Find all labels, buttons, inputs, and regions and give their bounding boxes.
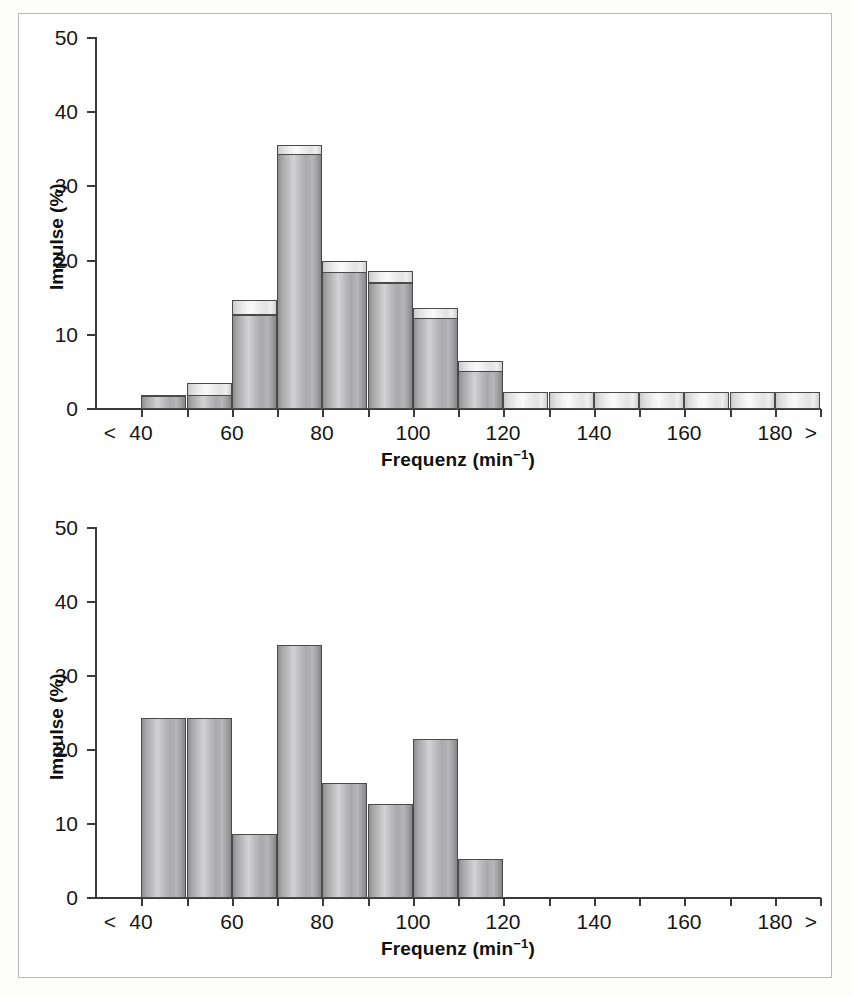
x-axis-tick-label: > [781,422,841,443]
histogram-bar [322,783,367,898]
x-axis-tick [413,898,415,906]
x-axis-tick [730,898,732,906]
x-axis-tick [322,898,324,906]
y-axis-tick-label: 50 [38,27,78,48]
x-axis-tick-label: 120 [473,422,533,443]
histogram-bar-cap [684,392,729,409]
x-axis-tick [413,409,415,417]
x-axis-tick [187,898,189,906]
y-axis-tick [87,601,95,603]
histogram-bar [322,272,367,409]
x-axis-tick [503,898,505,906]
y-axis-tick [87,823,95,825]
x-axis-tick-label: 140 [564,911,624,932]
x-axis-tick-label: 80 [292,422,352,443]
y-axis-tick [87,260,95,262]
x-axis-tick-label: 40 [111,422,171,443]
x-axis-tick-label: 60 [202,422,262,443]
x-axis-title-close-paren: ) [529,938,536,959]
x-axis-title-close-paren: ) [529,449,536,470]
x-axis-tick [277,898,279,906]
x-axis-title: Frequenz (min−1) [308,447,608,471]
histogram-bar-cap [232,300,277,315]
x-axis-tick [684,409,686,417]
histogram-bar-cap [639,392,684,409]
y-axis-tick [87,408,95,410]
x-axis-tick [820,898,822,906]
x-axis-tick-label: 140 [564,422,624,443]
x-axis-title-main: Frequenz (min [381,449,513,470]
y-axis-tick-label: 10 [38,813,78,834]
x-axis-tick [775,409,777,417]
x-axis-tick-label: 60 [202,911,262,932]
x-axis-tick [730,409,732,417]
histogram-bar [458,859,503,898]
y-axis-tick-label: 10 [38,324,78,345]
histogram-bar [187,718,232,898]
histogram-bar [141,718,186,898]
x-axis-tick [458,898,460,906]
histogram-bar [368,283,413,409]
y-axis-line [95,527,97,898]
x-axis-tick [232,409,234,417]
histogram-bar [277,154,322,409]
histogram-bar [277,645,322,898]
x-axis-tick [232,898,234,906]
histogram-bar [232,315,277,409]
x-axis-tick [775,898,777,906]
x-axis-tick [639,409,641,417]
x-axis-tick [594,898,596,906]
y-axis-tick-label: 50 [38,517,78,538]
x-axis-tick [141,409,143,417]
y-axis-tick [87,675,95,677]
histogram-bar [187,395,232,409]
x-axis-tick [322,409,324,417]
x-axis-tick-label: 120 [473,911,533,932]
x-axis-tick-label: 160 [654,422,714,443]
histogram-bar-cap [730,392,775,409]
y-axis-line [95,37,97,409]
histogram-bar [413,739,458,898]
x-axis-tick [639,898,641,906]
histogram-bar-cap [503,392,548,409]
y-axis-tick [87,185,95,187]
x-axis-title-superscript: −1 [513,936,528,951]
histogram-bar-cap [368,271,413,283]
x-axis-tick-label: > [781,911,841,932]
x-axis-title-main: Frequenz (min [381,938,513,959]
x-axis-tick [549,898,551,906]
histogram-bar [141,396,186,409]
x-axis-tick-label: 160 [654,911,714,932]
histogram-bar-cap [594,392,639,409]
y-axis-tick [87,897,95,899]
y-axis-tick-label: 40 [38,591,78,612]
y-axis-title: Impulse (%) [46,183,68,290]
histogram-bar [413,318,458,409]
histogram-bar [368,804,413,898]
y-axis-tick [87,334,95,336]
x-axis-tick [820,409,822,417]
x-axis-tick [187,409,189,417]
y-axis-tick-label: 0 [38,398,78,419]
x-axis-title-superscript: −1 [513,447,528,462]
x-axis-tick-label: 40 [111,911,171,932]
x-axis-title: Frequenz (min−1) [308,936,608,960]
x-axis-tick [684,898,686,906]
histogram-bar [232,834,277,898]
y-axis-title: Impulse (%) [46,673,68,780]
x-axis-tick [503,409,505,417]
x-axis-tick-label: 80 [292,911,352,932]
x-axis-tick [549,409,551,417]
x-axis-tick [277,409,279,417]
histogram-bar [458,371,503,409]
y-axis-tick-label: 0 [38,887,78,908]
histogram-bar-cap [775,392,820,409]
x-axis-tick [594,409,596,417]
y-axis-tick-label: 40 [38,101,78,122]
y-axis-tick [87,527,95,529]
x-axis-tick [141,898,143,906]
y-axis-tick [87,111,95,113]
x-axis-tick [458,409,460,417]
x-axis-tick-label: 100 [383,422,443,443]
y-axis-tick [87,37,95,39]
